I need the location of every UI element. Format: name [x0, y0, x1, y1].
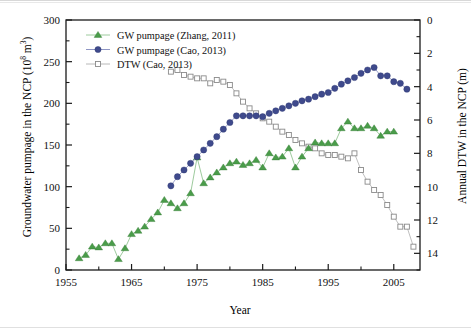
marker-triangle [285, 145, 293, 151]
marker-square-open [195, 76, 200, 81]
marker-triangle [75, 255, 83, 261]
marker-circle [351, 74, 357, 80]
marker-square-open [96, 62, 101, 67]
marker-triangle [167, 200, 175, 206]
x-tick-label: 1995 [317, 276, 340, 288]
marker-circle [168, 183, 174, 189]
marker-square-open [411, 244, 416, 249]
axis-tick-labels: 1955196519751985199520050501001502002503… [44, 14, 439, 288]
x-axis-title: Year [150, 304, 330, 316]
marker-square-open [385, 203, 390, 208]
marker-circle [345, 78, 351, 84]
y-tick-label-left: 0 [55, 264, 61, 276]
axis-ticks [66, 20, 420, 270]
chart-legend[interactable]: GW pumpage (Zhang, 2011)GW pumpage (Cao,… [86, 30, 235, 71]
marker-triangle [331, 140, 339, 146]
marker-circle [201, 147, 207, 153]
marker-triangle [219, 164, 227, 170]
marker-triangle [233, 158, 241, 164]
y-tick-label-left: 150 [44, 139, 61, 151]
marker-square-open [339, 154, 344, 159]
marker-circle [391, 79, 397, 85]
marker-circle [299, 98, 305, 104]
marker-circle [384, 73, 390, 79]
marker-square-open [372, 188, 377, 193]
marker-square-open [293, 138, 298, 143]
legend-label: GW pumpage (Zhang, 2011) [117, 30, 235, 42]
marker-circle [325, 89, 331, 95]
legend-item[interactable]: GW pumpage (Zhang, 2011) [86, 30, 235, 42]
marker-square-open [286, 133, 291, 138]
marker-circle [260, 114, 266, 120]
marker-square-open [227, 83, 232, 88]
marker-circle [358, 70, 364, 76]
marker-square-open [365, 179, 370, 184]
marker-circle [332, 85, 338, 91]
marker-square-open [391, 214, 396, 219]
y-tick-label-right: 0 [427, 14, 433, 26]
marker-square-open [313, 146, 318, 151]
marker-circle [312, 94, 318, 100]
marker-circle [338, 81, 344, 87]
marker-circle [207, 140, 213, 146]
marker-triangle [187, 190, 195, 196]
marker-triangle [101, 240, 109, 246]
marker-circle [174, 174, 180, 180]
marker-triangle [265, 150, 273, 156]
marker-triangle [160, 196, 168, 202]
marker-circle [233, 113, 239, 119]
marker-square-open [404, 224, 409, 229]
marker-circle [378, 73, 384, 79]
data-series [75, 64, 416, 261]
marker-square-open [352, 151, 357, 156]
marker-square-open [300, 141, 305, 146]
marker-triangle [115, 256, 123, 262]
marker-triangle [154, 209, 162, 215]
marker-circle [214, 134, 220, 140]
marker-triangle [121, 245, 129, 251]
marker-square-open [188, 74, 193, 79]
y-axis-left-title: Groundwater pumpage in the NCP (108 m3) [19, 27, 33, 247]
marker-square-open [332, 153, 337, 158]
marker-circle [187, 160, 193, 166]
marker-circle [266, 110, 272, 116]
marker-circle [279, 105, 285, 111]
marker-square-open [359, 168, 364, 173]
marker-triangle [383, 128, 391, 134]
x-tick-label: 1975 [186, 276, 209, 288]
marker-square-open [234, 91, 239, 96]
y-tick-label-right: 14 [427, 247, 439, 259]
y-tick-label-right: 12 [427, 214, 438, 226]
marker-circle [404, 86, 410, 92]
marker-circle [240, 113, 246, 119]
marker-triangle [134, 227, 142, 233]
y-tick-label-left: 50 [49, 222, 61, 234]
marker-square-open [273, 124, 278, 129]
series-line [171, 68, 407, 186]
plot-area: 1955196519751985199520050501001502002503… [0, 0, 471, 329]
marker-triangle [180, 200, 188, 206]
y-tick-label-left: 300 [44, 14, 61, 26]
marker-circle [286, 103, 292, 109]
marker-square-open [247, 106, 252, 111]
marker-square-open [345, 156, 350, 161]
marker-circle [371, 64, 377, 70]
marker-square-open [221, 79, 226, 84]
marker-circle [246, 113, 252, 119]
marker-triangle [390, 128, 398, 134]
y-tick-label-right: 6 [427, 114, 433, 126]
legend-item[interactable]: GW pumpage (Cao, 2013) [86, 45, 226, 57]
marker-circle [220, 126, 226, 132]
marker-circle [95, 46, 101, 52]
marker-circle [305, 96, 311, 102]
legend-item[interactable]: DTW (Cao, 2013) [86, 59, 192, 71]
legend-label: DTW (Cao, 2013) [117, 59, 192, 71]
marker-square-open [280, 129, 285, 134]
marker-triangle [108, 240, 116, 246]
marker-square-open [378, 193, 383, 198]
y-tick-label-right: 2 [427, 47, 433, 59]
y-tick-label-right: 8 [427, 147, 433, 159]
marker-circle [319, 91, 325, 97]
marker-circle [194, 154, 200, 160]
marker-square-open [267, 119, 272, 124]
